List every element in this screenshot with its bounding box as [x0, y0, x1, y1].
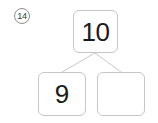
number-bond-whole-value: 10 — [82, 19, 110, 45]
connector-line-left — [62, 53, 95, 72]
number-bond-problem: 14 10 9 — [0, 0, 158, 123]
problem-number-text: 14 — [17, 12, 26, 21]
number-bond-part-box-2[interactable] — [97, 72, 145, 116]
number-bond-whole-box[interactable]: 10 — [73, 10, 118, 53]
problem-number-badge: 14 — [14, 8, 30, 24]
number-bond-part-value-1: 9 — [55, 81, 69, 107]
number-bond-part-box-1[interactable]: 9 — [38, 72, 86, 116]
connector-line-right — [95, 53, 121, 72]
